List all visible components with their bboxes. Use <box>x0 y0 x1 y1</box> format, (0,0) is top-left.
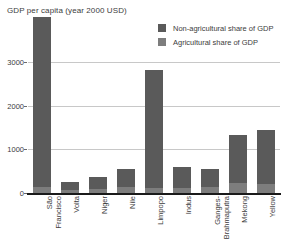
x-tick-label-line: Limpopo <box>156 196 165 225</box>
bar-segment-non-agricultural <box>145 70 163 187</box>
bar-segment-non-agricultural <box>173 167 191 188</box>
bar-group <box>173 167 191 193</box>
x-tick-label-line: Brahmaputra <box>223 196 232 239</box>
y-tick-label-2000: 2000 <box>7 101 24 110</box>
x-tick-label-line: Ganges- <box>213 196 222 225</box>
bar-group <box>257 130 275 193</box>
y-tick-mark-1000 <box>24 149 27 150</box>
bar-segment-non-agricultural <box>201 169 219 187</box>
bar-group <box>229 135 247 193</box>
x-tick-label-line: Indus <box>184 196 193 214</box>
x-tick-label: Indus <box>185 196 194 214</box>
y-tick-label-1000: 1000 <box>7 145 24 154</box>
bar-group <box>33 17 51 193</box>
x-tick-label: Niger <box>101 196 110 214</box>
x-tick-label-line: São <box>45 196 54 209</box>
x-tick-label: Nile <box>129 196 138 209</box>
x-axis-line <box>27 193 281 195</box>
bar-group <box>89 177 107 193</box>
bar-segment-non-agricultural <box>33 17 51 187</box>
bar-segment-non-agricultural <box>257 130 275 184</box>
bar-group <box>145 70 163 193</box>
x-tick-label-line: Yellow <box>268 196 277 217</box>
x-tick-label: SãoFrancisco <box>46 196 63 229</box>
x-tick-label-line: Niger <box>100 196 109 214</box>
bar-segment-non-agricultural <box>61 182 79 189</box>
plot-area <box>28 14 280 193</box>
y-axis: 0100020003000 <box>0 0 24 243</box>
x-tick-label-line: Volta <box>72 196 81 213</box>
bar-segment-agricultural <box>229 183 247 193</box>
gdp-per-capita-bar-chart: GDP per capita (year 2000 USD) Non-agric… <box>0 0 286 243</box>
bar-group <box>117 169 135 193</box>
bar-segment-non-agricultural <box>117 169 135 188</box>
gridline-3000 <box>28 62 280 63</box>
x-tick-label: Ganges-Brahmaputra <box>214 196 231 239</box>
bar-segment-agricultural <box>257 184 275 193</box>
bar-segment-non-agricultural <box>229 135 247 183</box>
x-tick-label: Mekong <box>241 196 250 223</box>
x-tick-label-line: Francisco <box>55 196 64 229</box>
y-tick-label-3000: 3000 <box>7 58 24 67</box>
x-tick-label: Volta <box>73 196 82 213</box>
bar-segment-non-agricultural <box>89 177 107 189</box>
x-tick-label-line: Nile <box>128 196 137 209</box>
x-tick-label-line: Mekong <box>240 196 249 223</box>
x-tick-label: Yellow <box>269 196 278 217</box>
y-tick-mark-2000 <box>24 106 27 107</box>
x-tick-label: Limpopo <box>157 196 166 225</box>
y-tick-mark-3000 <box>24 62 27 63</box>
x-axis-labels: SãoFranciscoVoltaNigerNileLimpopoIndusGa… <box>28 196 280 243</box>
bar-group <box>201 169 219 193</box>
bar-group <box>61 182 79 193</box>
